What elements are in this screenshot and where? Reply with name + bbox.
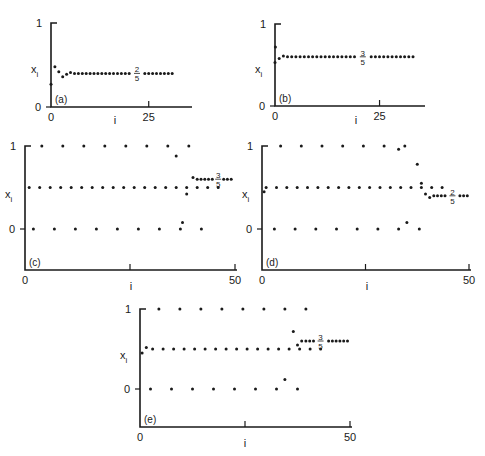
data-point	[157, 308, 160, 311]
data-point	[211, 178, 214, 181]
data-point	[120, 72, 123, 75]
data-point	[298, 348, 301, 351]
data-point	[196, 178, 199, 181]
data-point	[338, 340, 341, 343]
data-point	[403, 55, 406, 58]
data-point	[444, 194, 447, 197]
data-point	[181, 221, 184, 224]
data-point	[262, 308, 265, 311]
data-point	[340, 55, 343, 58]
data-point	[378, 55, 381, 58]
data-point	[430, 186, 433, 189]
data-point	[324, 55, 327, 58]
data-point	[187, 145, 190, 148]
x-tick-label-0: 0	[22, 274, 28, 286]
data-point	[69, 71, 72, 74]
data-point	[315, 55, 318, 58]
x-axis-label: i	[130, 280, 132, 292]
data-point	[331, 340, 334, 343]
data-point	[277, 348, 280, 351]
data-point	[300, 145, 303, 148]
data-point	[356, 228, 359, 231]
data-point	[410, 186, 413, 189]
data-point	[200, 228, 203, 231]
x-axis-label: i	[244, 437, 246, 449]
data-point	[328, 55, 331, 58]
data-point	[327, 340, 330, 343]
data-point	[137, 228, 140, 231]
data-point	[40, 145, 43, 148]
y-tick-label-0: 0	[246, 223, 252, 235]
panel-label: (c)	[29, 257, 41, 268]
data-point	[309, 348, 312, 351]
data-point	[59, 186, 62, 189]
data-point	[275, 186, 278, 189]
data-point	[274, 46, 277, 49]
y-tick-label-1: 1	[125, 303, 131, 315]
fraction-denominator: 5	[318, 342, 323, 351]
panel-label: (e)	[144, 414, 156, 425]
fraction-denominator: 5	[450, 197, 455, 206]
chart-panel-c: 10xi050i(c)35	[5, 140, 241, 292]
chart-panel-d: 10xi050i(d)25	[242, 140, 475, 292]
data-point	[214, 348, 217, 351]
chart-panel-a: 10xi025i(a)25	[31, 17, 192, 126]
data-point	[95, 228, 98, 231]
data-point	[220, 308, 223, 311]
data-point	[312, 340, 315, 343]
data-point	[395, 55, 398, 58]
axis-lines	[262, 146, 471, 270]
y-tick-label-0: 0	[35, 101, 41, 113]
x-axis-label: i	[114, 114, 116, 126]
x-tick-label-25: 25	[143, 111, 155, 123]
data-point	[420, 186, 423, 189]
data-point	[399, 55, 402, 58]
data-point	[397, 148, 400, 151]
data-point	[332, 55, 335, 58]
data-point	[61, 75, 64, 78]
y-axis-label: xi	[120, 349, 128, 365]
data-point	[200, 178, 203, 181]
data-point	[346, 340, 349, 343]
data-point	[74, 228, 77, 231]
chart-panel-b: 10xi025i(b)35	[255, 18, 425, 126]
data-point	[164, 186, 167, 189]
data-point	[154, 186, 157, 189]
fraction-denominator: 5	[216, 180, 221, 189]
data-point	[275, 388, 278, 391]
data-point	[436, 194, 439, 197]
data-point	[440, 194, 443, 197]
data-point	[73, 72, 76, 75]
x-tick-label-0: 0	[137, 431, 143, 443]
data-point	[80, 186, 83, 189]
data-point	[207, 178, 210, 181]
data-point	[53, 65, 56, 68]
data-point	[112, 72, 115, 75]
data-point	[420, 182, 423, 185]
data-point	[274, 61, 277, 64]
data-point	[241, 308, 244, 311]
data-point	[294, 228, 297, 231]
axis-lines	[25, 146, 237, 270]
data-point	[70, 186, 73, 189]
data-point	[175, 155, 178, 158]
data-point	[203, 178, 206, 181]
data-point	[283, 378, 286, 381]
data-point	[50, 83, 53, 86]
y-tick-label-1: 1	[260, 18, 266, 30]
data-point	[382, 55, 385, 58]
data-point	[462, 194, 465, 197]
y-tick-label-1: 1	[36, 17, 42, 29]
data-point	[345, 55, 348, 58]
data-point	[171, 72, 174, 75]
data-point	[193, 348, 196, 351]
y-axis-label: xi	[242, 188, 250, 204]
data-point	[285, 186, 288, 189]
data-point	[386, 55, 389, 58]
data-point	[336, 55, 339, 58]
panel-label: (b)	[279, 93, 291, 104]
data-point	[28, 186, 31, 189]
data-point	[82, 145, 85, 148]
y-tick-label-1: 1	[247, 140, 253, 152]
data-point	[116, 228, 119, 231]
